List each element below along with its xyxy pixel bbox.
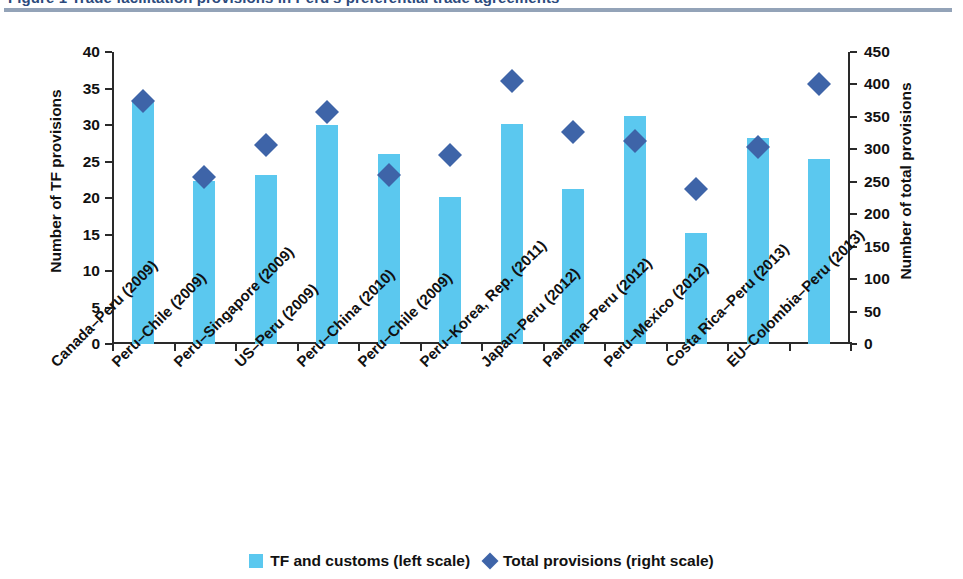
data-point-marker	[684, 177, 708, 201]
y-right-tickmark	[850, 148, 857, 150]
title-divider	[4, 8, 952, 12]
y-right-tickmark	[850, 213, 857, 215]
y-left-tick-label: 15	[66, 227, 100, 243]
y-left-tickmark	[105, 161, 112, 163]
bar	[316, 125, 338, 344]
legend-marker-label: Total provisions (right scale)	[503, 552, 714, 570]
y-right-tick-label: 400	[864, 76, 904, 92]
data-point-marker	[561, 120, 585, 144]
legend-diamond-swatch-icon	[482, 553, 499, 570]
y-right-tickmark	[850, 51, 857, 53]
y-left-tick-label: 20	[66, 190, 100, 206]
legend-item-bar: TF and customs (left scale)	[249, 552, 470, 570]
y-right-tick-label: 200	[864, 206, 904, 222]
y-axis-left-title: Number of TF provisions	[47, 31, 65, 331]
figure-title: Figure 1 Trade facilitation provisions i…	[8, 0, 560, 6]
y-right-tickmark	[850, 278, 857, 280]
legend-bar-swatch-icon	[249, 554, 263, 568]
y-left-tick-label: 10	[66, 263, 100, 279]
y-left-tick-label: 35	[66, 81, 100, 97]
y-left-tickmark	[105, 234, 112, 236]
y-left-tickmark	[105, 88, 112, 90]
y-left-tick-label: 25	[66, 154, 100, 170]
data-point-marker	[438, 143, 462, 167]
bar	[501, 124, 523, 344]
legend-item-marker: Total provisions (right scale)	[484, 552, 714, 570]
data-point-marker	[807, 72, 831, 96]
y-right-tickmark	[850, 181, 857, 183]
legend-bar-label: TF and customs (left scale)	[270, 552, 470, 570]
y-left-tickmark	[105, 197, 112, 199]
y-right-tick-label: 450	[864, 44, 904, 60]
y-left-tickmark	[105, 270, 112, 272]
data-point-marker	[315, 100, 339, 124]
y-right-tick-label: 300	[864, 141, 904, 157]
y-right-tick-label: 50	[864, 304, 904, 320]
data-point-marker	[500, 69, 524, 93]
bar	[747, 138, 769, 344]
data-point-marker	[254, 133, 278, 157]
y-left-tick-label: 40	[66, 44, 100, 60]
y-right-tick-label: 250	[864, 174, 904, 190]
x-axis-labels: Canada–Peru (2009)Peru–Chile (2009)Peru–…	[0, 344, 963, 544]
axis-spine-right	[848, 52, 850, 344]
y-right-tickmark	[850, 311, 857, 313]
chart-legend: TF and customs (left scale) Total provis…	[0, 552, 963, 570]
figure-chart: Figure 1 Trade facilitation provisions i…	[0, 0, 963, 579]
y-right-tickmark	[850, 116, 857, 118]
y-left-tick-label: 30	[66, 117, 100, 133]
y-right-tickmark	[850, 83, 857, 85]
bar	[132, 101, 154, 344]
y-left-tickmark	[105, 124, 112, 126]
bar	[808, 159, 830, 344]
y-right-tick-label: 100	[864, 271, 904, 287]
y-right-tick-label: 350	[864, 109, 904, 125]
y-left-tickmark	[105, 51, 112, 53]
y-right-tick-label: 150	[864, 239, 904, 255]
